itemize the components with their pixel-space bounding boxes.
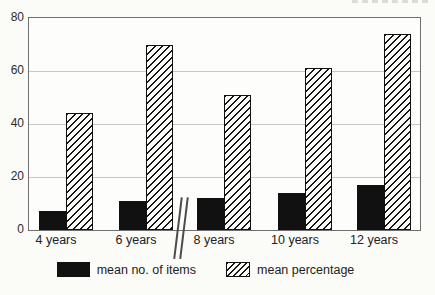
bar-12-years-percentage [384, 34, 411, 230]
x-tick-label-10-years: 10 years [271, 233, 319, 247]
x-tick-label-6-years: 6 years [116, 233, 157, 247]
bar-4-years-percentage [66, 113, 93, 230]
bar-6-years-percentage [146, 45, 173, 231]
bar-12-years-items [357, 185, 384, 230]
y-tick-label-20: 20 [0, 169, 24, 183]
legend-label: mean no. of items [97, 263, 196, 277]
legend-label: mean percentage [257, 263, 354, 277]
y-tick-label-60: 60 [0, 63, 24, 77]
bar-10-years-items [278, 193, 305, 230]
bar-6-years-items [119, 201, 146, 230]
x-tick-label-8-years: 8 years [194, 233, 235, 247]
x-axis-break-mark [174, 197, 188, 259]
gridline-60 [29, 71, 420, 72]
hatch-swatch-icon [226, 262, 250, 277]
y-tick-label-80: 80 [0, 10, 24, 24]
bar-4-years-items [39, 211, 66, 230]
cropped-header-artifact [352, 0, 432, 3]
x-tick-label-4-years: 4 years [36, 233, 77, 247]
solid-swatch-icon [57, 262, 90, 277]
y-tick-label-40: 40 [0, 116, 24, 130]
bar-chart-figure: 020406080 4 years6 years8 years10 years1… [0, 0, 435, 295]
bar-8-years-percentage [224, 95, 251, 230]
legend: mean no. of itemsmean percentage [0, 262, 423, 277]
x-tick-label-12-years: 12 years [350, 233, 398, 247]
bar-8-years-items [197, 198, 224, 230]
bar-10-years-percentage [305, 68, 332, 230]
y-tick-label-0: 0 [0, 222, 24, 236]
legend-item-items: mean no. of items [57, 262, 196, 277]
legend-item-percentage: mean percentage [226, 262, 354, 277]
plot-area [28, 17, 421, 231]
